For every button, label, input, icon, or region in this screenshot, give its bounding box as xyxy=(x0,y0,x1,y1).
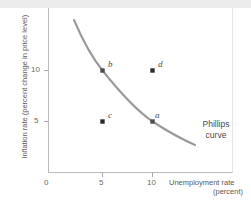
phillips-curve-figure: Inflation rate (percent change in price … xyxy=(0,0,251,208)
annotation-line-1: Phillips xyxy=(192,119,240,130)
x-tick-label-5: 5 xyxy=(99,179,103,187)
x-axis-title: Unemployment rate (percent) xyxy=(169,178,249,197)
x-axis-title-line1: Unemployment rate xyxy=(169,178,234,187)
data-point-d xyxy=(150,68,154,72)
point-label-d: d xyxy=(158,60,163,69)
data-point-b xyxy=(100,68,104,72)
data-point-c xyxy=(100,119,104,123)
x-tick-label-0: 0 xyxy=(44,179,48,187)
point-label-b: b xyxy=(108,60,113,69)
point-label-c: c xyxy=(108,111,112,120)
y-axis-title: Inflation rate (percent change in price … xyxy=(20,12,29,162)
point-label-a: a xyxy=(155,111,160,120)
plot-canvas xyxy=(0,0,251,208)
annotation-line-2: curve xyxy=(192,130,240,141)
y-tick-label-5: 5 xyxy=(34,117,38,125)
y-tick-label-10: 10 xyxy=(31,66,40,74)
x-axis-title-units: (percent) xyxy=(169,187,243,196)
phillips-curve-annotation: Phillips curve xyxy=(192,119,240,142)
x-tick-label-10: 10 xyxy=(147,179,156,187)
phillips-curve-line xyxy=(74,20,195,145)
